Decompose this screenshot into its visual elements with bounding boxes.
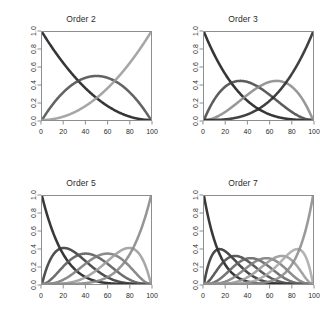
y-tick-label: 1.0 [192, 190, 199, 200]
curve-layer [42, 196, 151, 284]
y-tick-label: 0.2 [30, 262, 37, 272]
x-tick-label: 60 [266, 292, 274, 299]
panel-order-2: Order 2 0204060801000.00.20.40.60.81.0 [0, 0, 162, 164]
x-tick-label: 40 [244, 292, 252, 299]
y-tick-label: 0.6 [192, 226, 199, 236]
x-tick-label: 20 [221, 292, 229, 299]
x-tick-label: 40 [82, 292, 90, 299]
y-tick-label: 0.6 [30, 226, 37, 236]
curve-B3 [204, 32, 313, 120]
panel-order-3: Order 3 0204060801000.00.20.40.60.81.0 [162, 0, 324, 164]
curve-layer [42, 32, 151, 120]
panel-order-5: Order 5 0204060801000.00.20.40.60.81.0 [0, 164, 162, 328]
y-tick-label: 0.4 [192, 244, 199, 254]
y-tick-label: 0.2 [192, 98, 199, 108]
y-tick-label: 0.6 [192, 62, 199, 72]
plot-area [203, 195, 314, 285]
y-tick-label: 1.0 [30, 190, 37, 200]
plot-area [203, 31, 314, 121]
y-tick-label: 0.0 [192, 280, 199, 290]
y-tick-label: 0.6 [30, 62, 37, 72]
x-tick-label: 0 [201, 128, 205, 135]
curve-layer [204, 32, 313, 120]
curve-B0 [204, 32, 313, 120]
figure-panel-grid: Order 2 0204060801000.00.20.40.60.81.0 O… [0, 0, 325, 328]
panel-title: Order 5 [0, 178, 162, 188]
x-tick-label: 20 [59, 128, 67, 135]
plot-area [41, 195, 152, 285]
x-tick-label: 20 [221, 128, 229, 135]
y-tick-label: 0.2 [30, 98, 37, 108]
x-tick-label: 100 [308, 128, 320, 135]
plot-area [41, 31, 152, 121]
x-tick-label: 60 [104, 128, 112, 135]
y-tick-label: 0.8 [192, 44, 199, 54]
x-tick-label: 0 [39, 128, 43, 135]
y-tick-label: 0.8 [30, 44, 37, 54]
x-tick-label: 100 [146, 128, 158, 135]
y-tick-label: 0.4 [30, 244, 37, 254]
y-tick-label: 0.4 [192, 80, 199, 90]
y-tick-label: 1.0 [30, 26, 37, 36]
panel-title: Order 2 [0, 14, 162, 24]
x-tick-label: 100 [308, 292, 320, 299]
y-tick-label: 0.8 [192, 208, 199, 218]
x-tick-label: 20 [59, 292, 67, 299]
x-tick-label: 80 [126, 128, 134, 135]
y-tick-label: 1.0 [192, 26, 199, 36]
curve-B4 [42, 248, 151, 284]
panel-order-7: Order 7 0204060801000.00.20.40.60.81.0 [162, 164, 324, 328]
y-tick-label: 0.8 [30, 208, 37, 218]
y-tick-label: 0.0 [30, 116, 37, 126]
x-tick-label: 80 [288, 292, 296, 299]
y-tick-label: 0.0 [192, 116, 199, 126]
x-tick-label: 0 [201, 292, 205, 299]
x-tick-label: 80 [288, 128, 296, 135]
y-tick-label: 0.2 [192, 262, 199, 272]
y-tick-label: 0.0 [30, 280, 37, 290]
y-tick-label: 0.4 [30, 80, 37, 90]
panel-title: Order 3 [162, 14, 324, 24]
x-tick-label: 60 [266, 128, 274, 135]
x-tick-label: 0 [39, 292, 43, 299]
panel-title: Order 7 [162, 178, 324, 188]
curve-layer [204, 196, 313, 284]
x-tick-label: 40 [244, 128, 252, 135]
x-tick-label: 100 [146, 292, 158, 299]
x-tick-label: 60 [104, 292, 112, 299]
x-tick-label: 80 [126, 292, 134, 299]
curve-B1 [42, 248, 151, 284]
x-tick-label: 40 [82, 128, 90, 135]
